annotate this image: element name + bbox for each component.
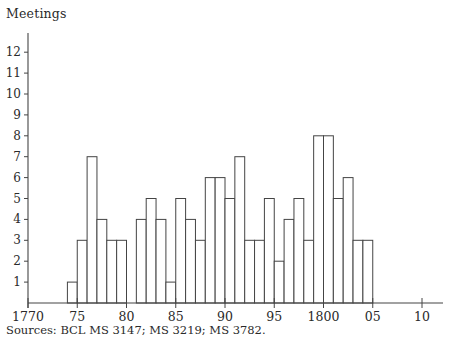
- histogram-bar: [215, 178, 225, 303]
- sources-note: Sources: BCL MS 3147; MS 3219; MS 3782.: [6, 323, 266, 337]
- y-tick-label: 11: [6, 66, 21, 80]
- x-tick-label: 75: [69, 309, 85, 324]
- histogram-bar: [314, 136, 324, 303]
- bars-group: [67, 136, 372, 303]
- histogram-bar: [97, 219, 107, 303]
- y-tick-label: 10: [6, 87, 21, 101]
- x-tick-label: 10: [414, 309, 430, 324]
- x-tick-label: 85: [168, 309, 184, 324]
- histogram-bar: [166, 282, 176, 303]
- histogram-bar: [264, 199, 274, 304]
- y-tick-label: 3: [13, 233, 21, 247]
- plot-area: 123456789101112 1770758085909518000510: [0, 0, 451, 344]
- histogram-bar: [255, 240, 265, 303]
- histogram-bar: [107, 240, 117, 303]
- histogram-bar: [136, 219, 146, 303]
- y-tick-label: 6: [13, 171, 21, 185]
- histogram-bar: [294, 199, 304, 304]
- histogram-bar: [343, 178, 353, 303]
- x-tick-label: 80: [119, 309, 135, 324]
- y-tick-label: 9: [13, 108, 21, 122]
- histogram-bar: [176, 199, 186, 304]
- histogram-bar: [333, 199, 343, 304]
- x-tick-label: 95: [266, 309, 282, 324]
- histogram-bar: [274, 261, 284, 303]
- histogram-bar: [245, 240, 255, 303]
- y-tick-label: 5: [13, 192, 21, 206]
- histogram-bar: [156, 219, 166, 303]
- y-tick-label: 12: [6, 45, 21, 59]
- y-ticks-group: 123456789101112: [6, 45, 28, 289]
- x-tick-label: 05: [365, 309, 381, 324]
- histogram-bar: [67, 282, 77, 303]
- histogram-bar: [205, 178, 215, 303]
- y-tick-label: 2: [13, 254, 21, 268]
- y-tick-label: 8: [13, 129, 21, 143]
- y-tick-label: 4: [13, 212, 21, 226]
- x-tick-label: 1770: [12, 309, 44, 324]
- histogram-bar: [363, 240, 373, 303]
- histogram-bar: [186, 219, 196, 303]
- y-tick-label: 7: [13, 150, 21, 164]
- histogram-bar: [117, 240, 127, 303]
- histogram-bar: [324, 136, 334, 303]
- y-axis-title: Meetings: [6, 6, 67, 21]
- histogram-bar: [235, 157, 245, 303]
- histogram-bar: [284, 219, 294, 303]
- histogram-bar: [304, 240, 314, 303]
- histogram-bar: [353, 240, 363, 303]
- histogram-bar: [87, 157, 97, 303]
- x-tick-label: 1800: [308, 309, 340, 324]
- x-tick-label: 90: [217, 309, 233, 324]
- histogram-bar: [146, 199, 156, 304]
- y-tick-label: 1: [13, 275, 21, 289]
- histogram-bar: [195, 240, 205, 303]
- histogram-chart: Meetings 123456789101112 177075808590951…: [0, 0, 451, 344]
- histogram-bar: [77, 240, 87, 303]
- histogram-bar: [225, 199, 235, 304]
